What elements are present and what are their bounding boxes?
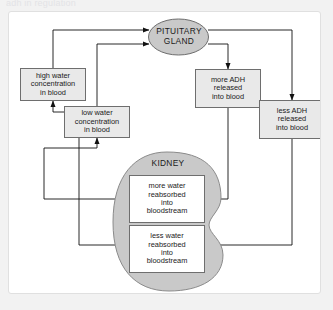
- more-water-reabsorbed-box[interactable]: more water reabsorbed into bloodstream: [129, 175, 205, 223]
- edge-high-water-to-pituitary: [53, 30, 149, 68]
- diagram-card: PITUITARY GLAND KIDNEY high water concen…: [8, 11, 321, 294]
- more-adh-released-box[interactable]: more ADH released into blood: [195, 69, 261, 108]
- less-water-reabsorbed-box[interactable]: less water reabsorbed into bloodstream: [129, 225, 205, 273]
- pituitary-gland-label: PITUITARY GLAND: [149, 27, 209, 46]
- edge-low-water-to-pituitary: [97, 44, 149, 106]
- low-water-concentration-box[interactable]: low water concentration in blood: [64, 106, 130, 138]
- edge-pituitary-to-more-adh: [208, 44, 228, 69]
- high-water-concentration-box[interactable]: high water concentration in blood: [20, 68, 86, 101]
- kidney-label: KIDNEY: [137, 159, 199, 169]
- edge-more-reabsorbed-to-low-water: [44, 138, 129, 199]
- top-caption-text: adh in regulation: [6, 0, 176, 8]
- less-adh-released-box[interactable]: less ADH released into blood: [259, 100, 321, 139]
- diagram-canvas: PITUITARY GLAND KIDNEY high water concen…: [9, 12, 321, 294]
- diagram-page: adh in regulation: [0, 0, 333, 310]
